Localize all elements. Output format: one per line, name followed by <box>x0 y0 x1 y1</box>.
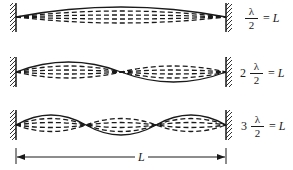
lambda-over-2-fraction: λ 2 <box>251 114 264 139</box>
mode-2-equation: 2 λ 2 = L <box>240 61 284 86</box>
mode-2-coefficient: 2 <box>240 66 246 81</box>
mode-3-equation: 3 λ 2 = L <box>241 114 285 139</box>
length-label: L <box>135 150 148 165</box>
length-dimension <box>16 148 226 164</box>
mode-3-coefficient: 3 <box>241 119 247 134</box>
lambda-over-2-fraction: λ 2 <box>245 6 258 31</box>
mode-2-string <box>10 57 232 87</box>
lambda-over-2-fraction: λ 2 <box>250 61 263 86</box>
mode-1-equation: λ 2 = L <box>241 6 279 31</box>
mode-1-string <box>10 3 232 32</box>
mode-3-string <box>10 110 232 140</box>
